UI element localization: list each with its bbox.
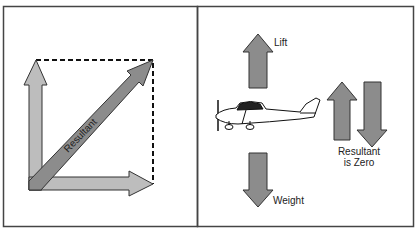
force-diagram: Resultant Lift Weight Resultant is Zero — [0, 0, 416, 232]
weight-label: Weight — [273, 195, 304, 206]
right-panel: Lift Weight Resultant is Zero — [216, 34, 387, 207]
resultant-label: Resultant — [62, 116, 99, 154]
lift-label: Lift — [274, 37, 288, 48]
balance-down-arrow — [357, 82, 387, 147]
resultant-zero-line1: Resultant — [338, 146, 380, 157]
left-panel: Resultant — [24, 60, 153, 196]
balance-up-arrow — [327, 82, 357, 140]
lift-arrow — [243, 34, 273, 88]
resultant-zero-line2: is Zero — [344, 157, 375, 168]
airplane-icon — [216, 98, 320, 131]
weight-arrow — [243, 153, 273, 207]
